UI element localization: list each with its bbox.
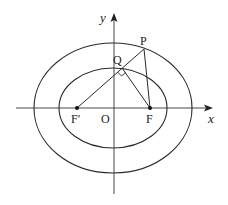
label-y: y xyxy=(98,10,106,25)
segment-fprime-p xyxy=(77,49,144,108)
point-f-prime xyxy=(75,106,79,110)
ellipse-diagram: y x O F′ F P Q xyxy=(0,0,228,205)
label-p: P xyxy=(140,34,147,48)
point-f xyxy=(148,106,152,110)
label-origin: O xyxy=(101,112,110,126)
label-q: Q xyxy=(113,53,122,67)
label-f-prime: F′ xyxy=(71,112,81,126)
label-x: x xyxy=(207,111,214,126)
segment-q-f xyxy=(122,68,150,108)
label-f: F xyxy=(146,112,153,126)
